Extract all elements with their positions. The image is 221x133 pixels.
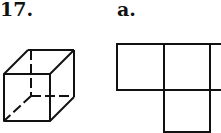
cube-edge-top-left	[4, 50, 28, 74]
net-figure	[117, 44, 221, 132]
figure-canvas	[0, 0, 221, 133]
net-square-2	[164, 44, 210, 90]
cube-edge-top-right	[50, 50, 74, 74]
net-square-4	[164, 90, 210, 132]
cube-front-face	[4, 74, 50, 121]
cube-figure	[4, 50, 74, 121]
cube-edge-bottom-right	[50, 97, 74, 121]
net-square-3	[210, 44, 221, 90]
cube-hidden-edge-diagonal	[5, 96, 31, 120]
net-square-1	[117, 44, 164, 90]
